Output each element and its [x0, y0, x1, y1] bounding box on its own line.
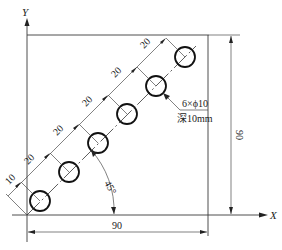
dim-arrow-icon: [229, 36, 233, 43]
y-axis-label: Y: [22, 6, 30, 18]
pitch-label: 20: [80, 94, 95, 109]
pitch-label: 20: [109, 65, 124, 80]
x-axis-arrow-icon: [259, 213, 268, 218]
dim-width-label: 90: [112, 220, 122, 231]
dim-arrow-icon: [28, 230, 35, 234]
dim-arrow-icon: [229, 207, 233, 214]
y-axis-arrow-icon: [25, 18, 30, 26]
pitch-label: 10: [3, 172, 18, 187]
pitch-label: 20: [138, 36, 153, 51]
angle-arrow-icon: [111, 207, 116, 214]
pitch-extension-lines: [6, 38, 185, 215]
pitch-dimension-chain: [8, 40, 164, 196]
x-axis-label: X: [269, 209, 278, 221]
hole-depth: 深10mm: [177, 113, 213, 124]
angle-label: 45°: [102, 179, 119, 197]
dim-height-label: 90: [234, 130, 245, 140]
dim-arrow-icon: [200, 230, 207, 234]
hole-pattern-drawing: Y X 90 90: [0, 0, 282, 250]
hole-count-diameter: 6×ϕ10: [182, 98, 208, 109]
pitch-label: 20: [51, 123, 66, 138]
pitch-label: 20: [22, 152, 37, 167]
